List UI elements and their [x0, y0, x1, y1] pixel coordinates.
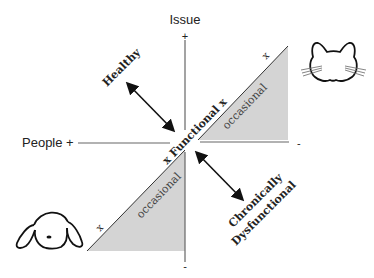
people-minus-sign: -	[297, 137, 301, 149]
issue-axis-label: Issue	[169, 12, 200, 27]
chronic-arrow	[197, 153, 242, 199]
healthy-label: Healthy	[100, 45, 144, 89]
dog-face-icon	[17, 213, 83, 249]
lower-x-marker: x	[94, 221, 106, 233]
healthy-arrow	[128, 84, 173, 130]
issue-plus-sign: +	[182, 30, 188, 42]
cat-face-icon	[301, 43, 366, 81]
quadrant-diagram: Issue + - People + - Healthy Chronically…	[0, 0, 374, 278]
upper-x-marker: x	[260, 49, 272, 61]
issue-minus-sign: -	[183, 260, 187, 272]
people-axis-label: People +	[22, 135, 74, 150]
